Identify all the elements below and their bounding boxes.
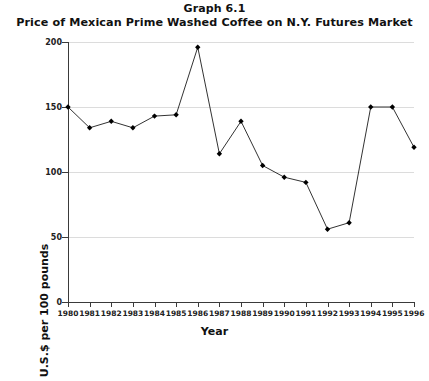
data-point-marker bbox=[303, 180, 308, 185]
data-point-marker bbox=[195, 45, 200, 50]
data-point-marker bbox=[130, 125, 135, 130]
data-point-marker bbox=[260, 163, 265, 168]
data-point-marker bbox=[325, 227, 330, 232]
data-point-marker bbox=[109, 119, 114, 124]
data-point-marker bbox=[282, 175, 287, 180]
data-point-marker bbox=[411, 145, 416, 150]
data-point-marker bbox=[173, 112, 178, 117]
data-point-marker bbox=[390, 104, 395, 109]
series-line bbox=[68, 47, 414, 229]
data-point-marker bbox=[217, 151, 222, 156]
data-point-marker bbox=[368, 104, 373, 109]
data-point-marker bbox=[238, 119, 243, 124]
data-point-marker bbox=[152, 113, 157, 118]
data-point-marker bbox=[346, 220, 351, 225]
